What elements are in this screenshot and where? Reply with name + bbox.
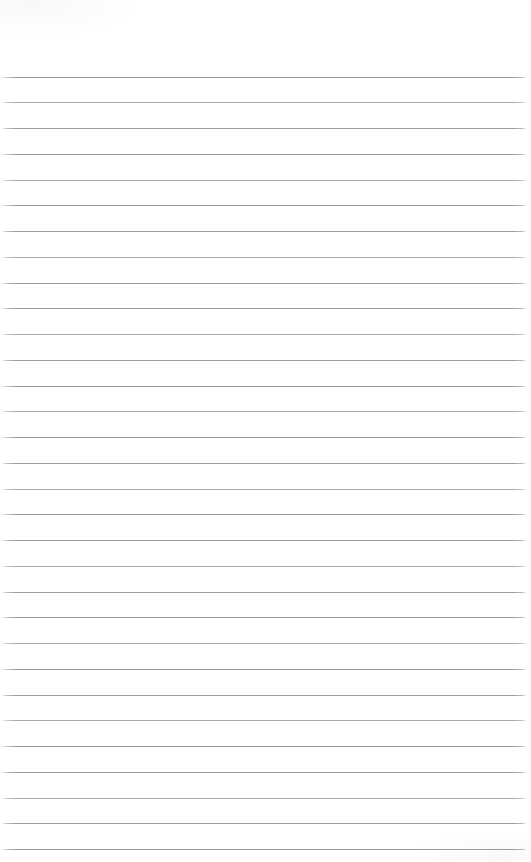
writing-row — [0, 541, 531, 566]
writing-row — [0, 618, 531, 643]
writing-row — [0, 747, 531, 772]
writing-row — [0, 258, 531, 283]
writing-row — [0, 387, 531, 412]
writing-row — [0, 644, 531, 669]
writing-row — [0, 206, 531, 231]
writing-row — [0, 464, 531, 489]
writing-row — [0, 155, 531, 180]
footer-margin-area — [0, 849, 531, 862]
lined-paper-page — [0, 0, 531, 862]
writing-row — [0, 284, 531, 309]
writing-row — [0, 515, 531, 540]
writing-row — [0, 335, 531, 360]
writing-row — [0, 721, 531, 746]
writing-row — [0, 309, 531, 334]
writing-row — [0, 129, 531, 154]
rule-lines-group — [0, 0, 531, 862]
writing-row — [0, 103, 531, 128]
writing-row — [0, 361, 531, 386]
writing-row — [0, 593, 531, 618]
writing-row — [0, 78, 531, 103]
writing-row — [0, 490, 531, 515]
writing-row — [0, 824, 531, 849]
writing-row — [0, 773, 531, 798]
writing-row — [0, 232, 531, 257]
writing-row — [0, 696, 531, 721]
writing-row — [0, 670, 531, 695]
writing-row — [0, 799, 531, 824]
writing-row — [0, 567, 531, 592]
writing-row — [0, 181, 531, 206]
writing-row — [0, 412, 531, 437]
writing-row — [0, 438, 531, 463]
